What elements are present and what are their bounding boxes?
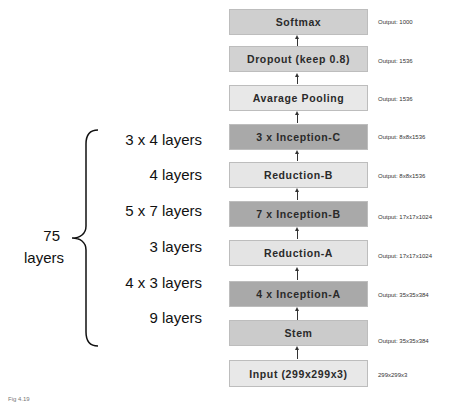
block-reduction-a: Reduction-A bbox=[229, 240, 368, 266]
output-average-pooling: Output: 1536 bbox=[378, 96, 413, 102]
figure-caption: Fig 4.19 bbox=[8, 396, 30, 402]
total-number: 75 bbox=[30, 225, 60, 247]
arrow-icon bbox=[297, 76, 298, 84]
output-inception-c: Output: 8x8x1536 bbox=[378, 134, 425, 140]
arrow-icon bbox=[297, 230, 298, 239]
layer-count-inception-a: 4 x 3 layers bbox=[125, 274, 202, 291]
block-average-pooling: Avarage Pooling bbox=[229, 85, 368, 111]
block-stem: Stem bbox=[229, 320, 368, 346]
output-softmax: Output: 1000 bbox=[378, 19, 413, 25]
layer-count-reduction-b: 4 layers bbox=[149, 166, 202, 183]
total-layers-label: 75 layers bbox=[36, 225, 62, 269]
block-reduction-b: Reduction-B bbox=[229, 162, 368, 188]
block-softmax: Softmax bbox=[229, 9, 368, 35]
output-reduction-b: Output: 8x8x1536 bbox=[378, 173, 425, 179]
block-dropout: Dropout (keep 0.8) bbox=[229, 46, 368, 72]
output-stem: Output: 35x35x384 bbox=[378, 338, 429, 344]
output-dropout: Output: 1536 bbox=[378, 58, 413, 64]
arrow-icon bbox=[297, 191, 298, 200]
arrow-icon bbox=[297, 310, 298, 320]
output-reduction-a: Output: 17x17x1024 bbox=[378, 253, 432, 259]
output-input: 299x299x3 bbox=[378, 372, 407, 378]
arrow-icon bbox=[297, 114, 298, 123]
layer-count-stem: 9 layers bbox=[149, 309, 202, 326]
block-input: Input (299x299x3) bbox=[229, 360, 368, 387]
arrow-icon bbox=[297, 153, 298, 161]
output-inception-a: Output: 35x35x384 bbox=[378, 292, 429, 298]
arrow-icon bbox=[297, 349, 298, 359]
curly-brace-icon bbox=[62, 128, 106, 350]
layer-count-reduction-a: 3 layers bbox=[149, 238, 202, 255]
block-inception-b: 7 x Inception-B bbox=[229, 201, 368, 227]
arrow-icon bbox=[297, 270, 298, 280]
block-inception-c: 3 x Inception-C bbox=[229, 124, 368, 150]
layer-count-inception-c: 3 x 4 layers bbox=[125, 131, 202, 148]
block-inception-a: 4 x Inception-A bbox=[229, 281, 368, 307]
layer-count-inception-b: 5 x 7 layers bbox=[125, 202, 202, 219]
arrow-icon bbox=[297, 38, 298, 46]
total-unit: layers bbox=[24, 247, 62, 269]
output-inception-b: Output: 17x17x1024 bbox=[378, 214, 432, 220]
